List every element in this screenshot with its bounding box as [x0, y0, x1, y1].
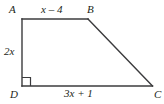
side-label-DC: 3x + 1 [64, 88, 93, 99]
vertex-label-D: D [10, 89, 18, 100]
right-angle-mark-icon [22, 78, 31, 87]
side-label-AB: x – 4 [41, 4, 62, 15]
vertex-label-B: B [87, 4, 94, 15]
side-label-AD: 2x [4, 46, 14, 57]
vertex-label-A: A [9, 4, 16, 15]
side-BC-line [88, 19, 153, 86]
vertex-label-C: C [154, 89, 161, 100]
geometry-figure: A B C D x – 4 2x 3x + 1 [0, 0, 164, 104]
